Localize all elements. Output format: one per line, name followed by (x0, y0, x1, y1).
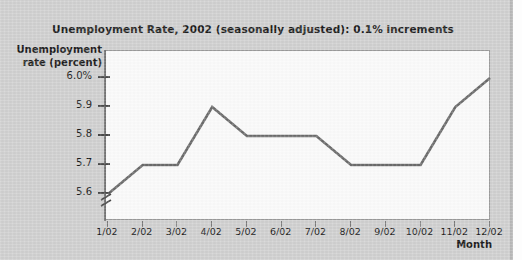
y-axis-tick-label: 6.0% (26, 70, 92, 81)
y-axis-tick-label: 5.8 (26, 128, 92, 139)
x-axis-tick-label: 12/02 (467, 226, 511, 237)
y-axis-label-line1: Unemployment (16, 44, 102, 55)
y-axis-label: Unemployment rate (percent) (4, 44, 102, 69)
data-line-series (106, 51, 491, 221)
y-axis-tick-label: 5.7 (26, 157, 92, 168)
y-axis-tick (98, 105, 110, 107)
chart-title: Unemployment Rate, 2002 (seasonally adju… (0, 23, 506, 35)
y-axis-tick (98, 134, 110, 136)
y-axis-label-line2: rate (percent) (4, 57, 102, 70)
y-axis-tick (98, 76, 110, 78)
figure-right-margin (513, 0, 522, 260)
chart-figure: Unemployment Rate, 2002 (seasonally adju… (0, 0, 522, 260)
y-axis-tick-label: 5.6 (26, 186, 92, 197)
y-axis-break-icon (98, 193, 114, 211)
plot-area (105, 50, 490, 220)
x-axis-label: Month (380, 239, 492, 250)
y-axis-tick-label: 5.9 (26, 99, 92, 110)
y-axis-tick (98, 163, 110, 165)
unemployment-rate-line (108, 78, 490, 194)
